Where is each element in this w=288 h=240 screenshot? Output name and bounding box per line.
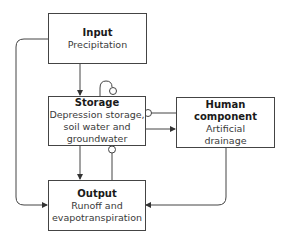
storage-title: Storage: [75, 97, 119, 109]
human-line-2: drainage: [204, 135, 246, 147]
output-line-1: Runoff and: [71, 200, 122, 212]
output-title: Output: [77, 188, 116, 200]
output-line-2: evapotranspiration: [52, 212, 142, 224]
output-storage-circle-icon: [109, 146, 116, 153]
storage-node: Storage Depression storage, soil water a…: [48, 96, 146, 146]
input-node: Input Precipitation: [48, 13, 147, 64]
output-node: Output Runoff and evapotranspiration: [48, 180, 146, 231]
input-line: Precipitation: [68, 39, 127, 51]
storage-line-2: soil water and: [63, 121, 130, 133]
edge-human-to-output-right: [146, 147, 226, 205]
storage-line-3: groundwater: [67, 133, 128, 145]
edge-input-to-output-left: [16, 39, 48, 205]
input-title: Input: [83, 27, 113, 39]
human-title: Human component: [177, 99, 274, 123]
human-line-1: Artificial: [206, 123, 245, 135]
storage-line-1: Depression storage,: [49, 109, 144, 121]
self-loop-circle-icon: [110, 88, 117, 95]
human-component-node: Human component Artificial drainage: [176, 97, 275, 148]
